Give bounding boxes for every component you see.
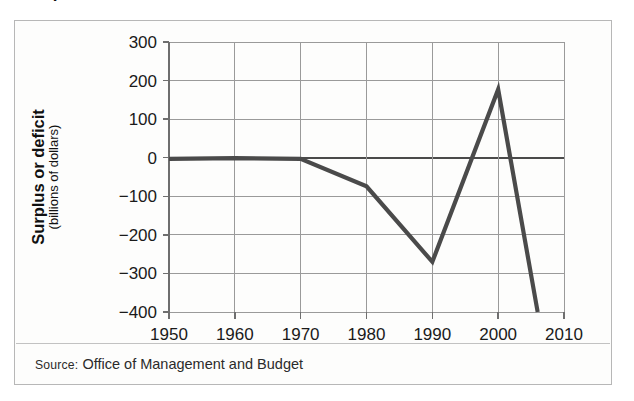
svg-text:−300: −300	[119, 264, 157, 283]
svg-text:1970: 1970	[282, 325, 320, 344]
svg-text:−100: −100	[119, 187, 157, 206]
figure-title: Surplus or deficit	[24, 0, 166, 5]
svg-text:200: 200	[129, 72, 157, 91]
line-chart-plot: 3002001000−100−200−300−40019501960197019…	[15, 21, 613, 386]
svg-text:0: 0	[148, 149, 157, 168]
svg-text:100: 100	[129, 110, 157, 129]
source-divider	[16, 343, 610, 344]
svg-text:2010: 2010	[545, 325, 583, 344]
source-label: Source:	[35, 358, 78, 372]
svg-text:2000: 2000	[479, 325, 517, 344]
data-line	[169, 89, 538, 312]
svg-text:1950: 1950	[150, 325, 188, 344]
figure-container: Surplus or deficit 3002001000−100−200−30…	[0, 0, 634, 401]
source-caption: Source: Office of Management and Budget	[35, 356, 303, 372]
svg-text:300: 300	[129, 33, 157, 52]
chart-frame: 3002001000−100−200−300−40019501960197019…	[14, 20, 612, 385]
svg-text:−200: −200	[119, 226, 157, 245]
svg-text:−400: −400	[119, 303, 157, 322]
source-value: Office of Management and Budget	[82, 356, 303, 372]
svg-text:1980: 1980	[348, 325, 386, 344]
svg-text:1960: 1960	[216, 325, 254, 344]
svg-text:1990: 1990	[413, 325, 451, 344]
